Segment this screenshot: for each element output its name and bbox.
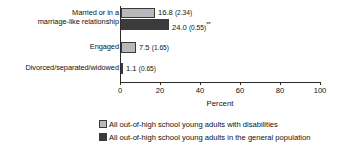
bar-value-significance: **	[206, 20, 210, 27]
x-tick-40	[200, 82, 201, 85]
x-tick-80	[280, 82, 281, 85]
legend-swatch-disabilities	[99, 120, 107, 128]
legend-item-general: All out-of-high school young adults in t…	[99, 131, 349, 143]
bar-engaged-disabilities	[121, 42, 136, 53]
bar-value-engaged-disabilities: 7.5 (1.65)	[139, 43, 169, 52]
category-label-married-line2: marriage-like relationship	[38, 17, 119, 26]
bar-value-married-disabilities: 16.8 (2.34)	[158, 8, 192, 17]
legend-label-disabilities: All out-of-high school young adults with…	[109, 120, 278, 129]
plot-area: Married or in amarriage-like relationshi…	[0, 0, 351, 96]
x-tick-20	[160, 82, 161, 85]
bar-value-se: (0.55)	[189, 24, 206, 31]
x-tick-label-80: 80	[276, 86, 284, 95]
x-tick-100	[320, 82, 321, 85]
chart-legend: All out-of-high school young adults with…	[99, 118, 349, 144]
bar-value-number: 16.8	[158, 8, 173, 17]
bar-value-divorced-disabilities: 1.1 (0.65)	[126, 64, 156, 73]
bar-value-number: 7.5	[139, 43, 150, 52]
bar-chart-figure: Married or in amarriage-like relationshi…	[0, 0, 351, 152]
x-axis-title: Percent	[120, 99, 320, 108]
x-tick-label-40: 40	[196, 86, 204, 95]
category-label-engaged: Engaged	[90, 43, 119, 52]
bar-value-married-general: 24.0 (0.55)**	[172, 20, 210, 32]
legend-label-general: All out-of-high school young adults in t…	[109, 133, 310, 142]
bar-married-disabilities	[121, 8, 155, 18]
bar-value-number: 1.1	[126, 64, 137, 73]
bar-divorced-disabilities	[121, 63, 123, 74]
bar-value-se: (2.34)	[175, 9, 192, 16]
x-tick-label-20: 20	[156, 86, 164, 95]
x-tick-label-100: 100	[314, 86, 327, 95]
bar-married-general	[121, 19, 169, 30]
legend-item-disabilities: All out-of-high school young adults with…	[99, 118, 349, 130]
x-tick-label-0: 0	[118, 86, 122, 95]
category-label-divorced: Divorced/separated/widowed	[25, 64, 119, 73]
bar-value-se: (1.65)	[152, 44, 169, 51]
x-tick-label-60: 60	[236, 86, 244, 95]
x-tick-0	[120, 82, 121, 85]
x-tick-60	[240, 82, 241, 85]
x-axis-line	[120, 82, 320, 83]
bar-value-se: (0.65)	[139, 65, 156, 72]
legend-swatch-general	[99, 133, 107, 141]
bar-value-number: 24.0	[172, 23, 187, 32]
category-label-married: Married or in amarriage-like relationshi…	[38, 9, 119, 26]
